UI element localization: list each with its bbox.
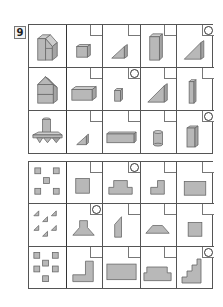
option-slanted-parallelogram[interactable] — [103, 204, 141, 247]
staircase-shape-icon — [177, 247, 214, 288]
option-large-triangular-prism[interactable] — [177, 25, 214, 68]
option-tall-thin-prism[interactable] — [177, 68, 214, 111]
reference-triangles — [29, 204, 67, 247]
option-staircase[interactable] — [177, 247, 214, 288]
option-small-rectangular-prism[interactable] — [103, 68, 141, 111]
triangular-prism-icon — [177, 25, 214, 67]
option-flared-pedestal[interactable] — [67, 204, 103, 247]
long-prism-icon — [103, 111, 140, 153]
option-large-triangular-prism[interactable] — [141, 68, 177, 111]
option-stepped-platform[interactable] — [141, 247, 177, 288]
problem-number-badge: 9 — [14, 26, 26, 39]
tall-prism-icon — [141, 25, 176, 67]
rectangle-shape-icon — [177, 162, 214, 203]
cylinder-icon — [141, 111, 176, 153]
wide-prism-icon — [67, 68, 102, 110]
rectangle-shape-icon — [103, 247, 140, 288]
option-small-triangular-prism[interactable] — [103, 25, 141, 68]
option-large-l-shape[interactable] — [67, 247, 103, 288]
option-small-triangular-prism[interactable] — [67, 111, 103, 153]
small-prism-icon — [103, 68, 140, 110]
composite-solid-icon — [29, 68, 66, 110]
tall-thin-prism-icon — [177, 68, 214, 110]
option-square[interactable] — [67, 162, 103, 204]
solids-grid — [28, 24, 213, 154]
triangular-prism-icon — [103, 25, 140, 67]
reference-solid-3 — [29, 111, 67, 153]
option-stepped-trapezoid[interactable] — [103, 162, 141, 204]
five-squares-icon — [29, 162, 66, 203]
tall-prism-icon — [177, 111, 214, 153]
l-shape-icon — [67, 247, 102, 288]
shapes-grid — [28, 161, 213, 289]
six-triangles-icon — [29, 204, 66, 246]
option-cube[interactable] — [67, 25, 103, 68]
parallelogram-shape-icon — [103, 204, 140, 246]
option-trapezoid[interactable] — [141, 204, 177, 247]
composite-solid-icon — [29, 111, 66, 153]
l-shape-icon — [141, 162, 176, 203]
option-wide-rectangular-prism[interactable] — [67, 68, 103, 111]
trapezoid-shape-icon — [141, 204, 176, 246]
reference-squares-1 — [29, 162, 67, 204]
triangular-prism-icon — [67, 111, 102, 153]
option-tall-rectangular-prism[interactable] — [141, 25, 177, 68]
option-tall-rectangular-prism[interactable] — [177, 111, 214, 153]
stepped-shape-icon — [103, 162, 140, 203]
square-shape-icon — [67, 162, 102, 203]
pedestal-shape-icon — [67, 204, 102, 246]
reference-solid-2 — [29, 68, 67, 111]
six-squares-icon — [29, 247, 66, 288]
option-l-shape[interactable] — [141, 162, 177, 204]
cube-icon — [67, 25, 102, 67]
reference-squares-2 — [29, 247, 67, 288]
option-rectangle[interactable] — [177, 162, 214, 204]
option-cylinder[interactable] — [141, 111, 177, 153]
option-wide-rectangle[interactable] — [103, 247, 141, 288]
option-long-rectangular-prism[interactable] — [103, 111, 141, 153]
option-square[interactable] — [177, 204, 214, 247]
composite-solid-icon — [29, 25, 66, 67]
square-shape-icon — [177, 204, 214, 246]
stepped-shape-icon — [141, 247, 176, 288]
reference-solid-1 — [29, 25, 67, 68]
triangular-prism-icon — [141, 68, 176, 110]
